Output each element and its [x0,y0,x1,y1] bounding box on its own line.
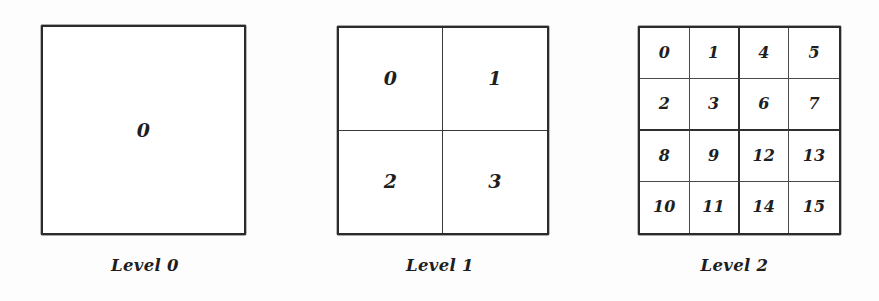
cell-label: 15 [803,199,826,215]
quadtree-levels-figure: 0 Level 0 0 1 2 3 Level 1 0 [0,0,879,301]
cell-label: 1 [708,45,719,61]
level-0-cell: 0 [43,27,244,233]
cell-label: 4 [758,45,769,61]
cell-label: 3 [488,172,501,191]
cell-label: 6 [758,96,769,112]
level-2-cell: 1 [690,28,740,79]
level-2-cell: 5 [789,28,839,79]
level-1-caption: Level 1 [290,256,590,275]
cell-label: 8 [659,148,670,164]
level-2-cell: 9 [690,131,740,182]
level-2-caption: Level 2 [590,256,879,275]
cell-label: 13 [803,148,826,164]
cell-label: 1 [488,69,501,88]
cell-label: 10 [653,199,676,215]
level-2-cell: 10 [640,182,690,233]
cell-label: 11 [702,199,725,215]
cell-label: 5 [808,45,819,61]
level-2-grid: 0 1 4 5 2 3 6 7 [638,26,841,235]
level-2-cell: 7 [789,79,839,130]
level-1-cell: 0 [339,28,443,131]
level-2-cell: 3 [690,79,740,130]
level-2-cell: 4 [740,28,790,79]
cell-label: 7 [808,96,819,112]
level-2-cell: 8 [640,131,690,182]
panel-level-2: 0 1 4 5 2 3 6 7 [590,0,879,301]
cell-label: 2 [659,96,670,112]
panel-level-1: 0 1 2 3 Level 1 [290,0,590,301]
level-0-grid: 0 [41,25,246,235]
level-2-cell: 13 [789,131,839,182]
level-2-cell: 2 [640,79,690,130]
cell-label: 0 [384,69,397,88]
cell-label: 12 [753,148,776,164]
level-2-cell: 12 [740,131,790,182]
level-1-cell: 3 [443,131,547,234]
cell-label: 14 [753,199,776,215]
level-1-cell: 1 [443,28,547,131]
level-2-cell: 6 [740,79,790,130]
level-2-cell: 14 [740,182,790,233]
level-1-grid: 0 1 2 3 [337,26,549,235]
level-1-cell: 2 [339,131,443,234]
level-2-cell: 0 [640,28,690,79]
level-0-caption: Level 0 [0,256,290,275]
level-2-cell: 15 [789,182,839,233]
cell-label: 3 [708,96,719,112]
cell-label: 0 [137,121,150,140]
cell-label: 9 [708,148,719,164]
cell-label: 2 [384,172,397,191]
level-2-cell: 11 [690,182,740,233]
cell-label: 0 [659,45,670,61]
panel-level-0: 0 Level 0 [0,0,290,301]
